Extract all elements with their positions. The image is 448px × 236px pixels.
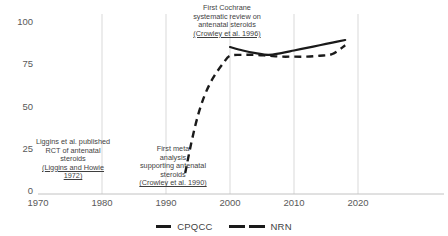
- annotation-first-cochrane: First Cochrane systematic review on ante…: [178, 4, 276, 38]
- legend-swatch-solid-icon: [156, 225, 171, 228]
- chart-legend: CPQCC NRN: [0, 221, 448, 232]
- series-line-cpqcc: [230, 40, 345, 55]
- x-tick-label: 2010: [283, 197, 304, 208]
- chart-container: 100 75 50 25 0 1970 1980 1990 2000 2010 …: [0, 0, 448, 236]
- legend-label-nrn: NRN: [271, 221, 292, 232]
- y-tick-label: 75: [22, 58, 33, 69]
- annotation-citation-year[interactable]: 1972): [28, 172, 118, 181]
- annotation-liggins: Liggins et al. published RCT of antenata…: [28, 138, 118, 181]
- legend-label-cpqcc: CPQCC: [177, 221, 212, 232]
- annotation-citation[interactable]: (Crowley et al. 1996): [178, 30, 276, 39]
- legend-item-nrn[interactable]: NRN: [229, 221, 292, 232]
- annotation-line: antenatal steroids: [198, 20, 256, 29]
- y-tick-label: 100: [17, 16, 33, 27]
- y-tick-label: 0: [28, 185, 33, 196]
- legend-swatch-dashed-icon: [229, 225, 265, 228]
- x-tick-label: 2000: [219, 197, 240, 208]
- annotation-citation[interactable]: (Crowley et al. 1990): [127, 179, 219, 188]
- x-tick-label: 1980: [91, 197, 112, 208]
- annotation-line: steroids: [60, 154, 86, 163]
- x-tick-label: 1970: [27, 197, 48, 208]
- x-tick-label: 2020: [347, 197, 368, 208]
- annotation-first-meta-analysis: First meta analysis supporting antenatal…: [127, 145, 219, 188]
- x-tick-label: 1990: [155, 197, 176, 208]
- legend-item-cpqcc[interactable]: CPQCC: [156, 221, 212, 232]
- x-axis-ticks: 1970 1980 1990 2000 2010 2020: [27, 197, 368, 208]
- y-tick-label: 50: [22, 101, 33, 112]
